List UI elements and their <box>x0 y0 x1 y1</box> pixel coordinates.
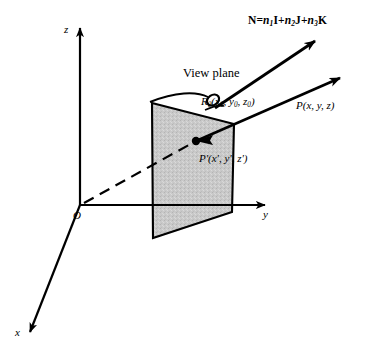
origin-label: O <box>73 210 81 221</box>
normal-vector-label: N=n1I+n2J+n3K <box>248 15 327 27</box>
p-prime-point <box>192 137 200 145</box>
reference-point-name: R <box>201 95 208 107</box>
normal-term3-basis: K <box>318 14 327 26</box>
reference-point-label: R0(x0, y0, z0) <box>201 96 255 109</box>
normal-plus2: + <box>301 14 308 26</box>
view-plane-label: View plane <box>183 67 240 80</box>
y-axis-label: y <box>263 209 268 220</box>
figure-canvas: z y x O N=n1I+n2J+n3K View plane R0(x0, … <box>0 0 367 355</box>
view-plane-leader-line <box>150 93 208 102</box>
x-axis-label: x <box>15 327 20 338</box>
point-p-prime-label: P'(x', y', z') <box>199 153 248 164</box>
x-axis <box>30 205 80 332</box>
point-p-label: P(x, y, z) <box>296 100 334 111</box>
z-axis-label: z <box>64 24 68 35</box>
reference-point-coords: (x0, y0, z0) <box>211 95 254 107</box>
diagram-svg <box>0 0 367 355</box>
view-plane-shape <box>152 103 234 238</box>
normal-plus1: + <box>278 14 285 26</box>
